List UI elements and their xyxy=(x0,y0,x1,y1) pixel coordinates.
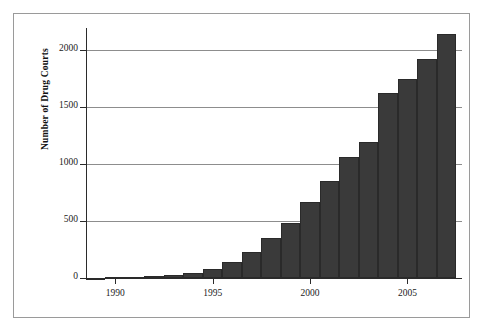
bar xyxy=(86,278,105,280)
bar xyxy=(125,277,144,279)
x-axis-tick-label: 1990 xyxy=(95,288,135,298)
bar xyxy=(203,269,222,278)
bar xyxy=(144,276,163,278)
x-axis-tick-mark xyxy=(115,278,116,284)
bar xyxy=(359,142,378,278)
x-axis-tick-label: 2000 xyxy=(290,288,330,298)
bar xyxy=(320,181,339,278)
bar xyxy=(261,238,280,278)
bar xyxy=(242,252,261,278)
x-axis-tick-mark xyxy=(407,278,408,284)
bar-series xyxy=(0,0,484,333)
x-axis-tick-mark xyxy=(310,278,311,284)
bar xyxy=(164,275,183,278)
x-axis-tick-label: 1995 xyxy=(193,288,233,298)
bar xyxy=(222,262,241,278)
bar xyxy=(378,93,397,278)
bar xyxy=(417,59,436,278)
bar xyxy=(437,34,456,278)
bar xyxy=(300,202,319,278)
bar xyxy=(183,273,202,278)
chart-figure: Number of Drug Courts 0500100015002000 1… xyxy=(0,0,484,333)
bar xyxy=(398,79,417,279)
x-axis-tick-label: 2005 xyxy=(387,288,427,298)
x-axis-tick-mark xyxy=(213,278,214,284)
bar xyxy=(281,223,300,278)
bar xyxy=(339,157,358,278)
